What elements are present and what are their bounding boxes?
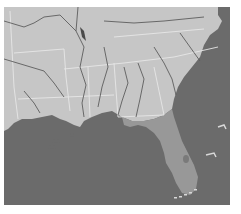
lake-okeechobee: [183, 155, 189, 163]
map-frame: [4, 7, 230, 205]
southeast-us-map: [4, 7, 230, 205]
